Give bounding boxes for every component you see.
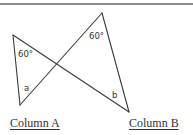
top-angle-label: 60° xyxy=(89,31,104,41)
column-b-label: Column B xyxy=(129,116,179,131)
long-diagonal-up xyxy=(20,13,102,105)
crossed-triangles-figure: 60° 60° a b xyxy=(0,0,193,135)
angle-a-label: a xyxy=(24,83,29,93)
left-angle-label: 60° xyxy=(18,49,33,59)
left-triangle-left-side xyxy=(13,35,20,105)
column-a-label: Column A xyxy=(10,116,60,131)
angle-b-label: b xyxy=(112,90,117,100)
